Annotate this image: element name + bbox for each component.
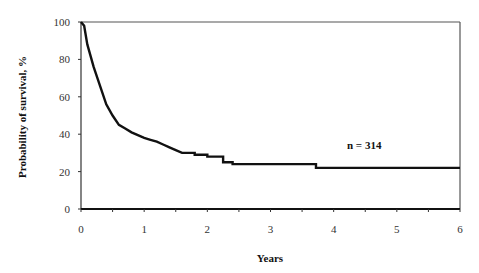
x-tick-label: 2 [205, 223, 211, 235]
y-tick-label: 40 [59, 128, 71, 140]
sample-size-annotation: n = 314 [347, 139, 382, 151]
survival-chart: 020406080100 0123456 n = 314 Years Proba… [0, 0, 479, 273]
x-tick-label: 6 [457, 223, 463, 235]
plot-frame [81, 22, 460, 209]
y-tick-label: 80 [59, 53, 71, 65]
y-tick-label: 20 [59, 166, 71, 178]
x-axis: 0123456 [78, 209, 463, 235]
x-tick-label: 4 [331, 223, 337, 235]
y-tick-label: 0 [65, 203, 71, 215]
x-tick-label: 0 [78, 223, 84, 235]
x-tick-label: 1 [141, 223, 147, 235]
x-axis-title: Years [257, 252, 284, 264]
x-tick-label: 3 [268, 223, 274, 235]
y-tick-label: 100 [54, 16, 71, 28]
y-tick-label: 60 [59, 91, 71, 103]
y-axis: 020406080100 [54, 16, 82, 215]
y-axis-title: Probability of survival, % [16, 56, 28, 178]
x-tick-label: 5 [394, 223, 400, 235]
survival-curve [81, 22, 460, 168]
